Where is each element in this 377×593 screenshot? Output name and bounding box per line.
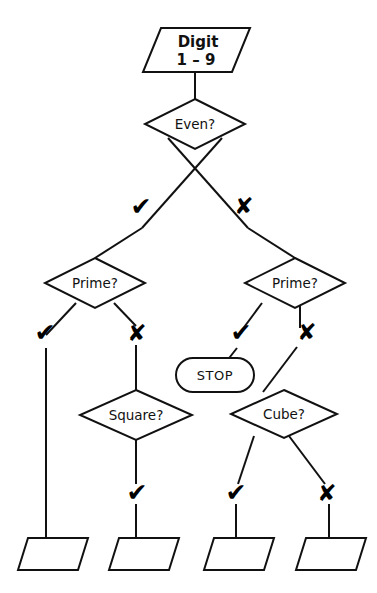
output-3-parallelogram-shape xyxy=(204,538,274,570)
node-output-4[interactable] xyxy=(296,538,366,570)
edge-label-prime-right-no-cross-icon: ✘ xyxy=(297,319,316,345)
output-4-parallelogram-shape xyxy=(296,538,366,570)
node-terminal-stop[interactable]: STOP xyxy=(176,358,254,392)
node-decision-prime-right[interactable]: Prime? xyxy=(245,258,345,308)
edge-label-prime-left-yes-check-icon: ✔ xyxy=(35,318,56,347)
edge-label-cube-no-cross-icon: ✘ xyxy=(317,480,336,506)
flowchart-svg: Digit 1 – 9 Even? Prime? Prime? STOP Squ… xyxy=(0,0,377,593)
edge-label-square-yes-check-icon: ✔ xyxy=(127,478,148,507)
edge-cube-no-a xyxy=(289,436,325,484)
prime-right-label: Prime? xyxy=(272,275,318,291)
input-line2-label: 1 – 9 xyxy=(177,51,216,69)
node-output-3[interactable] xyxy=(204,538,274,570)
node-output-1[interactable] xyxy=(18,538,88,570)
output-1-parallelogram-shape xyxy=(18,538,88,570)
node-decision-even[interactable]: Even? xyxy=(145,99,245,149)
node-decision-cube[interactable]: Cube? xyxy=(231,390,337,438)
edge-prime-right-no-b xyxy=(263,347,297,392)
node-input-digit[interactable]: Digit 1 – 9 xyxy=(143,28,250,72)
input-line1-label: Digit xyxy=(178,33,219,51)
edge-even-yes-to-prime-left xyxy=(142,138,222,228)
even-label: Even? xyxy=(175,116,216,132)
prime-left-label: Prime? xyxy=(72,275,118,291)
edge-even-yes-tail xyxy=(95,228,142,258)
flowchart-canvas: Digit 1 – 9 Even? Prime? Prime? STOP Squ… xyxy=(0,0,377,593)
cube-label: Cube? xyxy=(263,406,305,422)
edge-label-prime-left-no-cross-icon: ✘ xyxy=(127,320,146,346)
edge-labels-layer: ✔ ✘ ✔ ✘ ✔ ✘ ✔ ✔ ✘ xyxy=(35,192,337,507)
stop-label: STOP xyxy=(197,368,233,383)
output-2-parallelogram-shape xyxy=(109,538,179,570)
edge-cube-yes-a xyxy=(238,436,254,484)
edge-label-even-yes-check-icon: ✔ xyxy=(131,192,152,221)
edge-label-even-no-cross-icon: ✘ xyxy=(234,193,253,219)
edge-label-prime-right-yes-check-icon: ✔ xyxy=(231,318,252,347)
edge-label-cube-yes-check-icon: ✔ xyxy=(226,478,247,507)
edge-even-no-tail xyxy=(248,228,295,258)
node-decision-square[interactable]: Square? xyxy=(80,390,192,440)
node-output-2[interactable] xyxy=(109,538,179,570)
square-label: Square? xyxy=(109,407,164,423)
node-decision-prime-left[interactable]: Prime? xyxy=(45,258,145,308)
